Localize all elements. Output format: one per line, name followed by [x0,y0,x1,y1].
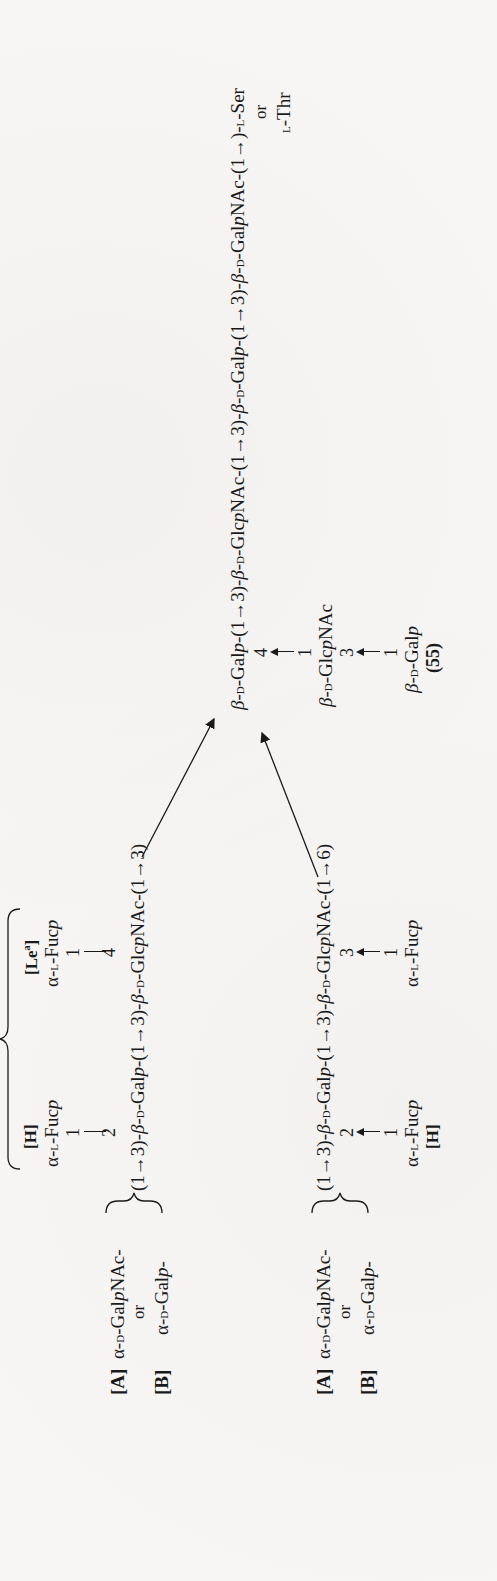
lower-fuc-h-to: 2 [338,1128,356,1137]
rotated-figure-canvas: [A] α-d-GalpNAc- or [B] α-d-Galp- (1→3)-… [0,0,497,1581]
lower-fuc3-arrow-icon [358,951,380,952]
lower-fuc-h-from: 1 [382,1128,400,1137]
lower-fuc-h-arrow-icon [358,1131,380,1132]
lower-fuc3-to: 3 [338,948,356,957]
lower-ab-brace-icon [0,0,497,1581]
lower-main-chain: (1→3)-β-d-Galp-(1→3)-β-d-GlcpNAc-(1→6) [314,844,333,1191]
lower-fuc-h-label: [H] [424,1124,441,1149]
lower-fuc3-from: 1 [382,948,400,957]
lower-fuc-h-residue: α-l-Fucp [402,1100,421,1167]
lower-fuc3-residue: α-l-Fucp [402,920,421,987]
